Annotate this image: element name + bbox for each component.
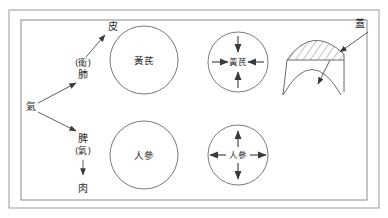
page-background [0,0,388,218]
skin-label: 皮 [108,20,118,32]
renshen-arrow-label: 人參 [229,150,247,160]
huangqi-large-label: 黃芪 [134,55,154,66]
renshen-large-label: 人參 [134,150,154,161]
flesh-label: 肉 [78,182,88,194]
lung-organ-label: 肺 [78,69,88,80]
diagram-canvas: 氣 (衛) 肺 皮 脾 (氣) 肉 黃芪 人參 黃芪 人參 蓋 [0,0,388,218]
spleen-qi-modifier-label: (氣) [75,145,91,156]
wei-modifier-label: (衛) [75,57,91,68]
qi-source-label: 氣 [26,100,36,112]
spleen-organ-label: 脾 [78,132,88,144]
huangqi-arrow-label: 黃芪 [229,57,247,67]
dome-label: 蓋 [355,18,365,29]
